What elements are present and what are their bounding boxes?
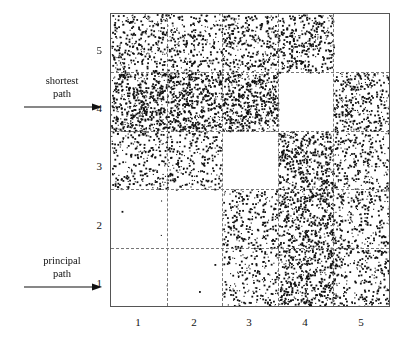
annotation-shortest-path-line2: path <box>22 87 102 100</box>
gridline-horizontal-4 <box>111 248 389 249</box>
gridline-vertical-2 <box>222 14 223 306</box>
y-axis-tick-label-2: 2 <box>86 219 102 231</box>
scatter-points-canvas <box>111 14 389 306</box>
gridline-vertical-1 <box>167 14 168 306</box>
y-axis-tick-label-3: 3 <box>86 160 102 172</box>
x-axis-tick-label-1: 1 <box>128 316 148 328</box>
x-axis-tick-label-2: 2 <box>184 316 204 328</box>
x-axis-tick-label-5: 5 <box>351 316 371 328</box>
gridline-horizontal-1 <box>111 72 389 73</box>
scatter-density-figure: 1 2 3 4 5 5 4 3 2 1 shortest path princi… <box>0 0 409 342</box>
plot-area <box>110 13 390 307</box>
gridline-horizontal-3 <box>111 189 389 190</box>
arrow-right-icon-principal-path <box>22 280 104 294</box>
arrow-right-icon-shortest-path <box>22 100 104 114</box>
x-axis-tick-label-4: 4 <box>295 316 315 328</box>
gridline-horizontal-2 <box>111 131 389 132</box>
annotation-shortest-path: shortest path <box>22 74 104 114</box>
annotation-principal-path-line2: path <box>22 267 102 280</box>
gridline-vertical-4 <box>333 14 334 306</box>
y-axis-tick-label-5: 5 <box>86 44 102 56</box>
gridline-vertical-3 <box>278 14 279 306</box>
x-axis-tick-label-3: 3 <box>239 316 259 328</box>
annotation-principal-path: principal path <box>22 254 104 294</box>
annotation-principal-path-line1: principal <box>22 254 102 267</box>
annotation-shortest-path-line1: shortest <box>22 74 102 87</box>
